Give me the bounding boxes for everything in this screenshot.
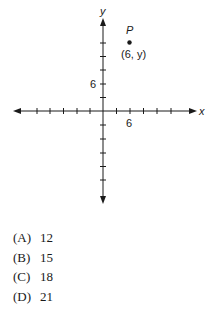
point-p-coordinates: (6, y) (121, 48, 146, 60)
choice-letter: (C) (13, 267, 40, 287)
choice-value: 21 (40, 287, 53, 307)
choice-letter: (B) (13, 248, 40, 268)
y-axis-label: y (99, 5, 107, 17)
x-axis-right-arrow-icon (189, 108, 197, 114)
x-axis-label: x (198, 105, 205, 117)
point-p (127, 40, 131, 44)
choice-letter: (A) (13, 228, 40, 248)
choice-d[interactable]: (D) 21 (13, 287, 53, 307)
y-axis-down-arrow-icon (100, 196, 106, 204)
choice-letter: (D) (13, 287, 40, 307)
answer-choices: (A) 12 (B) 15 (C) 18 (D) 21 (13, 228, 53, 306)
x-axis-left-arrow-icon (13, 108, 21, 114)
choice-c[interactable]: (C) 18 (13, 267, 53, 287)
x-tick-label-6: 6 (126, 117, 132, 129)
choice-a[interactable]: (A) 12 (13, 228, 53, 248)
choice-b[interactable]: (B) 15 (13, 248, 53, 268)
coordinate-plane: x y 6 6 P (6, y) (0, 0, 216, 215)
point-p-name: P (126, 24, 134, 36)
y-axis-up-arrow-icon (100, 18, 106, 26)
choice-value: 15 (40, 248, 53, 268)
choice-value: 18 (40, 267, 53, 287)
y-tick-label-6: 6 (90, 78, 96, 90)
choice-value: 12 (40, 228, 53, 248)
